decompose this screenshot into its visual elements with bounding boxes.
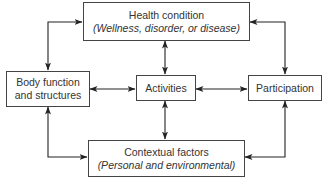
body-function-line2: and structures bbox=[15, 89, 82, 102]
node-participation: Participation bbox=[248, 75, 322, 101]
contextual-factors-title: Contextual factors bbox=[124, 146, 209, 159]
edge-health-participation bbox=[250, 22, 285, 74]
body-function-line1: Body function bbox=[16, 76, 80, 89]
node-activities: Activities bbox=[136, 75, 196, 101]
node-body-function: Body function and structures bbox=[6, 71, 90, 107]
health-condition-subtitle: (Wellness, disorder, or disease) bbox=[93, 22, 240, 35]
node-contextual-factors: Contextual factors (Personal and environ… bbox=[88, 140, 245, 177]
node-health-condition: Health condition (Wellness, disorder, or… bbox=[83, 2, 250, 41]
edge-participation-contextual bbox=[245, 101, 285, 157]
activities-title: Activities bbox=[145, 82, 186, 95]
participation-title: Participation bbox=[256, 82, 314, 95]
edge-health-body bbox=[48, 22, 82, 70]
contextual-factors-subtitle: (Personal and environmental) bbox=[98, 159, 236, 172]
edge-body-contextual bbox=[48, 107, 87, 157]
health-condition-title: Health condition bbox=[129, 9, 204, 22]
